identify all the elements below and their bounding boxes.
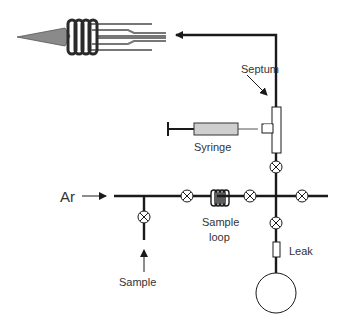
valve-inlet-icon[interactable] xyxy=(181,190,193,202)
schematic: Septum Syringe Ar Sample Sample loop Lea… xyxy=(0,0,344,327)
sample-label: Sample xyxy=(119,276,156,288)
valve-upper-icon[interactable] xyxy=(270,161,282,173)
line-to-torch xyxy=(176,35,276,122)
valve-right-icon[interactable] xyxy=(296,190,308,202)
septum-tee-icon xyxy=(262,107,281,153)
argon-label: Ar xyxy=(60,188,75,205)
valve-loop-out-icon[interactable] xyxy=(244,190,256,202)
sample-loop-label-1: Sample xyxy=(202,216,239,228)
valve-lower-icon[interactable] xyxy=(270,217,282,229)
syringe-icon xyxy=(168,122,258,136)
plasma-torch-icon xyxy=(17,20,166,54)
reservoir-vessel-icon xyxy=(256,273,296,313)
leak-label: Leak xyxy=(289,245,313,257)
septum-label: Septum xyxy=(241,63,279,75)
valve-sample-icon[interactable] xyxy=(138,211,150,223)
septum-pointer-arrow xyxy=(247,75,267,95)
leak-restrictor-icon xyxy=(273,242,280,257)
diagram-canvas: Septum Syringe Ar Sample Sample loop Lea… xyxy=(0,0,344,327)
sample-loop-coil-icon xyxy=(211,190,229,206)
sample-loop-label-2: loop xyxy=(209,231,230,243)
syringe-label: Syringe xyxy=(194,141,231,153)
